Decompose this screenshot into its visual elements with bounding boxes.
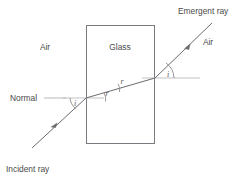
label-angle-refraction-inner: r: [120, 77, 124, 86]
emergent-ray-arrowhead: [185, 44, 190, 50]
diagram-canvas: Air Glass Air Normal Incident ray Emerge…: [0, 0, 243, 177]
incident-ray-arrowhead: [51, 123, 57, 128]
refraction-diagram: Air Glass Air Normal Incident ray Emerge…: [0, 0, 243, 177]
label-air-left: Air: [40, 42, 50, 52]
label-air-right: Air: [203, 37, 213, 47]
label-angle-incidence: i: [74, 99, 76, 108]
label-glass: Glass: [109, 42, 130, 52]
label-incident-ray: Incident ray: [6, 164, 50, 174]
label-angle-emergence: i: [167, 70, 169, 79]
emergent-ray-line: [155, 23, 212, 78]
incident-ray-line: [32, 98, 86, 148]
label-normal: Normal: [10, 93, 37, 103]
label-angle-refraction-entry: r: [105, 89, 109, 98]
label-emergent-ray: Emergent ray: [178, 6, 229, 16]
